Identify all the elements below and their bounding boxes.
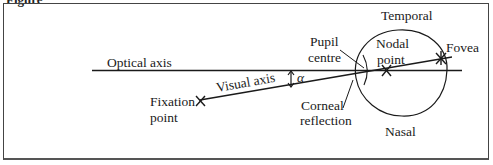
corneal-reflection-label-line1: Corneal	[301, 98, 344, 113]
nodal-point-label-line2: point	[377, 52, 405, 67]
alpha-label: α	[297, 70, 305, 85]
fixation-point-marker	[196, 96, 205, 106]
fixation-point-label-line2: point	[150, 110, 178, 125]
visual-axis-label: Visual axis	[215, 70, 276, 95]
alpha-angle-arrow	[288, 71, 294, 87]
fixation-point-label-line1: Fixation	[150, 94, 195, 109]
nodal-point-label-line1: Nodal	[376, 36, 409, 51]
optical-axis-label: Optical axis	[107, 55, 172, 70]
corneal-reflection-label-line2: reflection	[300, 113, 352, 128]
pupil-centre-label-line1: Pupil	[310, 34, 339, 49]
eye-axes-diagram: Optical axis Visual axis α Fixation poin…	[0, 0, 493, 165]
nasal-label: Nasal	[385, 124, 416, 139]
temporal-label: Temporal	[381, 8, 433, 23]
fovea-label: Fovea	[446, 40, 479, 55]
pupil-centre-label-line2: centre	[308, 50, 341, 65]
corneal-reflection-leader	[343, 80, 353, 108]
